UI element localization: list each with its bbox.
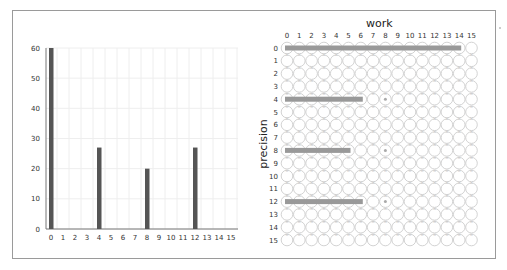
column-label: 4: [334, 32, 339, 40]
span-bar: [285, 46, 461, 51]
row-label: 9: [274, 160, 278, 168]
column-label: 14: [455, 32, 464, 40]
row-label: 1: [274, 57, 278, 65]
column-label: 9: [395, 32, 399, 40]
marker-dot: [384, 149, 387, 152]
marker-dot: [384, 200, 387, 203]
span-bar: [285, 148, 351, 153]
column-label: 11: [418, 32, 427, 40]
row-label: 7: [274, 134, 278, 142]
row-label: 0: [274, 45, 278, 53]
column-label: 3: [322, 32, 326, 40]
column-label: 8: [383, 32, 387, 40]
column-label: 7: [371, 32, 375, 40]
work-precision-matrix: workprecision01234567891011121314150××××…: [0, 0, 507, 270]
column-label: 13: [442, 32, 451, 40]
y-axis-title: precision: [257, 119, 270, 169]
column-label: 1: [297, 32, 301, 40]
row-label: 13: [269, 211, 278, 219]
column-label: 12: [430, 32, 439, 40]
row-label: 3: [274, 83, 278, 91]
row-label: 5: [274, 109, 278, 117]
row-label: 11: [269, 185, 278, 193]
row-label: 2: [274, 70, 278, 78]
column-label: 0: [285, 32, 289, 40]
column-label: 10: [406, 32, 415, 40]
x-axis-title: work: [366, 17, 393, 30]
column-label: 6: [359, 32, 364, 40]
row-label: 4: [274, 96, 279, 104]
column-label: 15: [467, 32, 476, 40]
span-bar: [285, 199, 363, 204]
row-label: 6: [274, 121, 279, 129]
marker-dot: [384, 98, 387, 101]
row-label: 12: [269, 198, 278, 206]
column-label: 5: [346, 32, 350, 40]
row-label: 14: [269, 224, 278, 232]
row-label: 10: [269, 173, 278, 181]
row-label: 15: [269, 237, 278, 245]
span-bar: [285, 97, 363, 102]
row-label: 8: [274, 147, 278, 155]
column-label: 2: [309, 32, 313, 40]
